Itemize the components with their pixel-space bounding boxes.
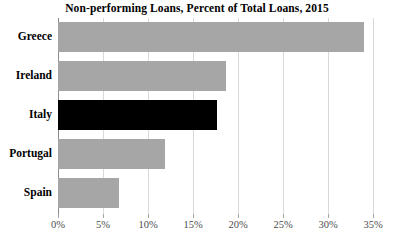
x-axis-tick [193, 214, 194, 218]
x-axis-tick [103, 214, 104, 218]
category-label-italy: Italy [0, 108, 52, 120]
bar-greece [58, 22, 364, 52]
category-label-portugal: Portugal [0, 147, 52, 159]
x-axis-tick-label: 35% [353, 219, 393, 230]
category-label-spain: Spain [0, 186, 52, 198]
category-label-greece: Greece [0, 30, 52, 42]
x-axis-tick [58, 214, 59, 218]
x-axis-tick [148, 214, 149, 218]
x-axis-tick [328, 214, 329, 218]
x-axis-tick-label: 25% [263, 219, 303, 230]
x-axis-tick-label: 20% [218, 219, 258, 230]
bar-spain [58, 178, 119, 208]
x-axis-tick-label: 5% [83, 219, 123, 230]
x-axis-tick [373, 214, 374, 218]
x-axis-tick [238, 214, 239, 218]
bar-ireland [58, 61, 226, 91]
x-axis-tick-label: 15% [173, 219, 213, 230]
bar-italy [58, 100, 217, 130]
x-axis-tick-label: 30% [308, 219, 348, 230]
x-axis-tick [283, 214, 284, 218]
chart-title: Non-performing Loans, Percent of Total L… [0, 2, 394, 14]
bar-portugal [58, 139, 165, 169]
x-axis-tick-label: 10% [128, 219, 168, 230]
x-axis-tick-label: 0% [38, 219, 78, 230]
category-label-ireland: Ireland [0, 69, 52, 81]
gridline [373, 18, 374, 214]
chart-container: Non-performing Loans, Percent of Total L… [0, 0, 394, 248]
